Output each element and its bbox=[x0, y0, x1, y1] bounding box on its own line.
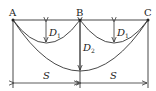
label-d1-right: D1 bbox=[116, 27, 129, 39]
label-s-right: S bbox=[110, 70, 117, 81]
point-a bbox=[12, 19, 15, 22]
label-a: A bbox=[8, 7, 17, 18]
label-d1-left: D1 bbox=[48, 27, 61, 39]
point-c bbox=[147, 19, 150, 22]
small-arc-left bbox=[13, 20, 80, 43]
cable-sag-diagram: A B C D1 D1 D2 S S bbox=[0, 0, 156, 91]
label-c: C bbox=[144, 7, 152, 18]
label-d2: D2 bbox=[82, 42, 95, 54]
label-s-left: S bbox=[43, 70, 50, 81]
label-b: B bbox=[76, 7, 83, 18]
large-arc bbox=[13, 20, 148, 71]
point-b bbox=[79, 19, 82, 22]
